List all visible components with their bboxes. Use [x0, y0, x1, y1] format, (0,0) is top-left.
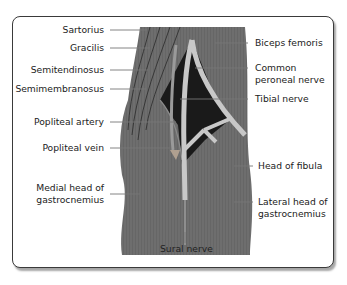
label-medial-head-gastrocnemius: Medial head of gastrocnemius — [36, 182, 104, 206]
label-tibial-nerve: Tibial nerve — [255, 93, 309, 105]
label-popliteal-artery: Popliteal artery — [34, 116, 104, 128]
label-common-peroneal-nerve: Common peroneal nerve — [255, 62, 325, 86]
label-sartorius: Sartorius — [63, 24, 104, 36]
label-sural-nerve: Sural nerve — [160, 243, 213, 255]
label-gracilis: Gracilis — [70, 42, 104, 54]
label-semimembranosus: Semimembranosus — [15, 83, 104, 95]
label-lateral-head-gastrocnemius: Lateral head of gastrocnemius — [258, 196, 328, 220]
label-biceps-femoris: Biceps femoris — [255, 37, 323, 49]
label-semitendinosus: Semitendinosus — [31, 64, 104, 76]
label-head-of-fibula: Head of fibula — [258, 160, 322, 172]
label-popliteal-vein: Popliteal vein — [42, 142, 104, 154]
